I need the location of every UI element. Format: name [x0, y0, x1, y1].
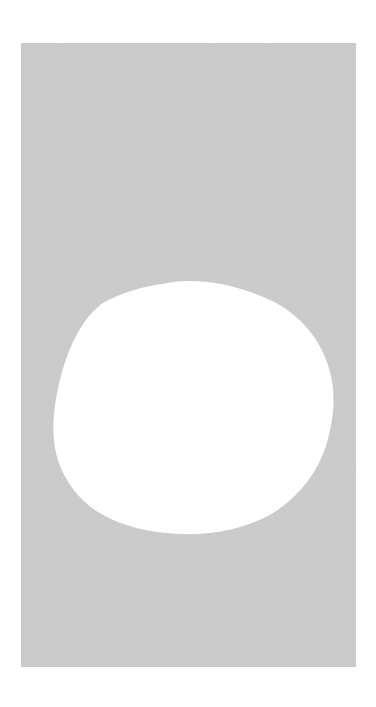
white-blob: [53, 281, 333, 534]
image-canvas: [0, 0, 376, 707]
